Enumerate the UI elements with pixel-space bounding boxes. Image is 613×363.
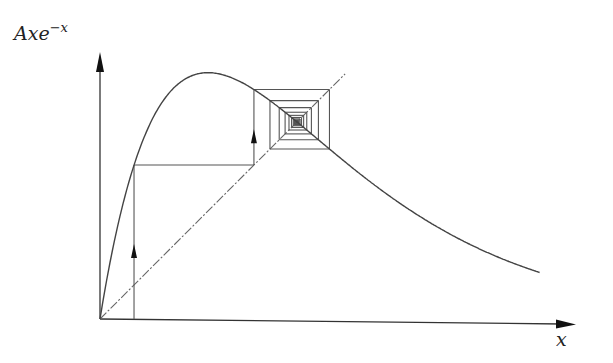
x-axis-label: x <box>556 328 567 350</box>
x-axis <box>100 319 562 324</box>
y-axis-label: Axe−x <box>12 20 69 44</box>
up-arrow-icon <box>251 129 257 143</box>
up-arrow-icon <box>131 244 137 258</box>
cobweb-diagram: Axe−x x <box>0 0 613 363</box>
y-axis-arrow-icon <box>96 52 104 72</box>
function-curve <box>100 73 540 319</box>
diagonal-line-y-equals-x <box>100 74 345 319</box>
iteration-arrows <box>131 129 257 258</box>
